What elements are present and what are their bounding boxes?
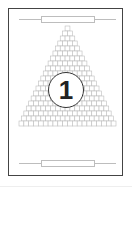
- divider: [0, 186, 132, 187]
- card-number: 1: [59, 77, 73, 103]
- number-circle: 1: [48, 72, 84, 108]
- bottom-bar-box: [41, 160, 95, 167]
- bottom-bar: [19, 160, 116, 167]
